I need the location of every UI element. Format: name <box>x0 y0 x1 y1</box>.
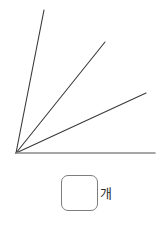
worksheet-figure-panel: 개 <box>0 0 166 225</box>
answer-unit-label: 개 <box>100 187 112 200</box>
angle-diagram <box>0 0 166 166</box>
answer-input-box[interactable] <box>61 175 98 211</box>
ray-2-line <box>16 42 105 153</box>
answer-row: 개 <box>61 175 112 211</box>
ray-3-line <box>16 93 146 153</box>
ray-1-line <box>16 10 44 153</box>
